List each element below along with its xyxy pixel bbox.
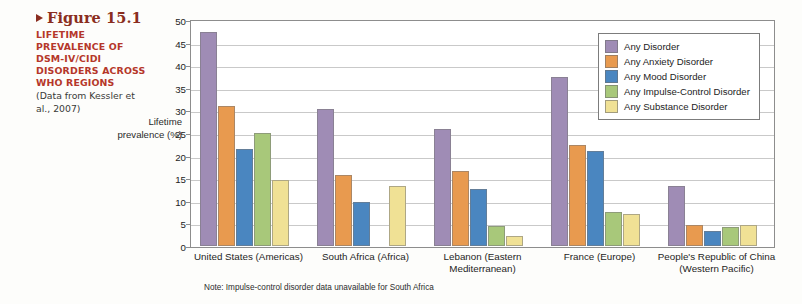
figure-root: Figure 15.1 LIFETIME PREVALENCE OF DSM-I… [0,0,802,304]
bar [200,32,218,246]
bar [272,180,290,246]
bar [506,236,524,246]
figure-caption: Figure 15.1 LIFETIME PREVALENCE OF DSM-I… [36,9,148,115]
bar [587,151,605,246]
figure-headline: LIFETIME PREVALENCE OF DSM-IV/CIDI DISOR… [36,29,148,89]
bar [740,225,758,246]
x-axis-label-line: Mediterranean) [412,263,553,275]
legend-swatch-icon [605,85,618,98]
legend-item-label: Any Disorder [624,41,679,52]
chart-note: Note: Impulse-control disorder data unav… [204,283,434,292]
bar [569,145,587,246]
y-tick-label: 20 [164,151,186,162]
bar [389,186,407,246]
bar [551,77,569,246]
bar [470,189,488,246]
y-tick-label: 15 [164,174,186,185]
y-tick-label: 50 [164,16,186,27]
bar [335,175,353,246]
legend-item: Any Anxiety Disorder [605,54,750,69]
bar [704,231,722,246]
y-tick-label: 40 [164,61,186,72]
legend-swatch-icon [605,55,618,68]
bar [353,202,371,246]
y-tick-label: 25 [164,129,186,140]
y-tick-label: 45 [164,38,186,49]
y-tick-label: 35 [164,83,186,94]
figure-label: Figure 15.1 [47,9,142,26]
chart-legend: Any DisorderAny Anxiety DisorderAny Mood… [598,33,760,120]
triangle-right-icon [36,14,43,22]
legend-swatch-icon [605,40,618,53]
figure-source: (Data from Kessler et al., 2007) [36,90,148,114]
legend-item: Any Impulse-Control Disorder [605,84,750,99]
x-axis-label-line: People's Republic of China [646,251,787,263]
bar [686,225,704,246]
figure-title: Figure 15.1 [36,9,148,26]
bar [605,212,623,246]
legend-item-label: Any Anxiety Disorder [624,56,713,67]
legend-swatch-icon [605,100,618,113]
bar [668,186,686,246]
legend-item: Any Substance Disorder [605,99,750,114]
bar [488,226,506,246]
bar [236,149,254,246]
legend-item-label: Any Impulse-Control Disorder [624,86,750,97]
legend-item: Any Disorder [605,39,750,54]
y-tick-label: 5 [164,219,186,230]
bar [722,227,740,246]
bar [452,171,470,246]
legend-item-label: Any Mood Disorder [624,71,706,82]
x-axis-labels: United States (Americas)South Africa (Af… [190,251,775,281]
legend-item-label: Any Substance Disorder [624,101,727,112]
bar [218,106,236,246]
bar [623,214,641,246]
legend-swatch-icon [605,70,618,83]
bar [254,133,272,246]
bar [317,109,335,246]
legend-item: Any Mood Disorder [605,69,750,84]
y-tick-label: 10 [164,196,186,207]
bar [434,129,452,246]
y-tick-label: 30 [164,106,186,117]
x-axis-label: People's Republic of China(Western Pacif… [646,251,787,274]
y-axis-ticks: 05101520253035404550 [162,20,186,248]
x-axis-label-line: (Western Pacific) [646,263,787,275]
